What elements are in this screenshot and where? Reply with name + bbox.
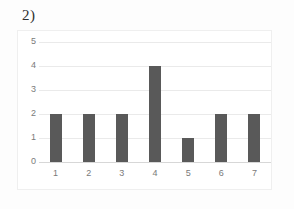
- axis-line-zero: [39, 162, 271, 163]
- plot-area: [39, 42, 271, 162]
- x-tick-label: 1: [46, 167, 66, 179]
- bar: [182, 138, 194, 162]
- question-number-label: 2): [22, 6, 36, 24]
- y-tick-label: 3: [20, 85, 36, 94]
- x-tick-label: 3: [112, 167, 132, 179]
- bar: [215, 114, 227, 162]
- x-tick-label: 2: [79, 167, 99, 179]
- x-tick-label: 5: [178, 167, 198, 179]
- x-tick-label: 6: [211, 167, 231, 179]
- y-tick-label: 5: [20, 37, 36, 46]
- y-tick-label: 0: [20, 157, 36, 166]
- x-tick-label: 4: [145, 167, 165, 179]
- y-tick-label: 1: [20, 133, 36, 142]
- bar: [50, 114, 62, 162]
- bar: [149, 66, 161, 162]
- gridline: [39, 42, 271, 43]
- y-tick-label: 4: [20, 61, 36, 70]
- x-axis-tick-labels: 1234567: [39, 167, 271, 183]
- chart-page: 2) 543210 1234567: [0, 0, 294, 209]
- bar: [248, 114, 260, 162]
- y-tick-label: 2: [20, 109, 36, 118]
- y-axis-tick-labels: 543210: [18, 42, 36, 162]
- bar: [83, 114, 95, 162]
- bar: [116, 114, 128, 162]
- x-tick-label: 7: [244, 167, 264, 179]
- bar-chart: 543210 1234567: [17, 30, 272, 190]
